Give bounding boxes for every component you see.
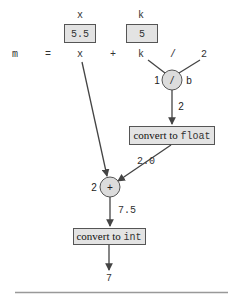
convert-int-prefix: convert to [76,230,123,242]
variable-k-value-box: 5 [127,25,158,43]
variable-x-value-box: 5.5 [65,25,96,43]
division-order-label: 1 [154,75,160,86]
token-m: m [12,49,18,60]
convert-float-type: float [181,131,211,142]
expression-line: m = x + k / 2 [12,49,207,60]
addition-operator: + [107,182,113,193]
final-result-value: 7 [106,273,112,284]
variable-x-value: 5.5 [71,29,89,40]
convert-float-prefix: convert to [133,129,180,141]
variable-k-value: 5 [139,29,145,40]
token-k: k [138,49,144,60]
edge-x-to-add [82,62,107,176]
division-node: / [162,70,182,90]
token-divide: / [170,49,176,60]
variable-k-label: k [138,10,144,21]
addition-node: + [100,177,120,197]
edge-2-to-divide [179,60,200,73]
addition-output-value: 7.5 [118,205,136,216]
float-output-value: 2.0 [137,156,155,167]
svg-text:convert to float: convert to float [133,129,210,142]
token-2: 2 [201,49,207,60]
convert-int-type: int [124,232,142,243]
token-plus: + [110,49,116,60]
division-side-label: b [186,75,192,86]
variable-x-label: x [77,10,83,21]
addition-order-label: 2 [91,182,97,193]
svg-text:convert to int: convert to int [76,230,141,243]
edge-k-to-divide [148,60,165,73]
convert-to-int-box: convert to int [74,229,146,245]
expression-evaluation-diagram: x k 5.5 5 m = x + k / 2 / 1 b 2 convert … [0,0,228,299]
division-output-value: 2 [178,101,184,112]
token-x: x [77,49,83,60]
convert-to-float-box: convert to float [130,127,215,145]
token-equals: = [45,49,51,60]
